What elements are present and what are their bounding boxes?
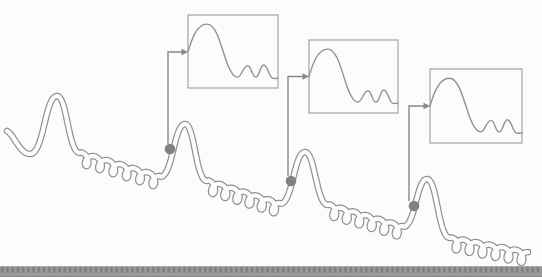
- inset-callout: [430, 69, 522, 143]
- sample-point-marker: [286, 176, 297, 187]
- figure-canvas: [0, 0, 542, 277]
- inset-callout: [309, 40, 398, 113]
- inset-callout: [188, 15, 278, 88]
- figure-panel: [0, 0, 542, 277]
- connector-arrowhead-icon: [303, 73, 310, 79]
- bottom-bar-top-edge: [0, 266, 542, 267]
- connector-arrowhead-icon: [182, 49, 189, 55]
- bottom-bar: [0, 266, 542, 277]
- connector-arrowhead-icon: [424, 103, 431, 109]
- sample-point-marker: [165, 144, 176, 155]
- sample-point-marker: [409, 201, 420, 212]
